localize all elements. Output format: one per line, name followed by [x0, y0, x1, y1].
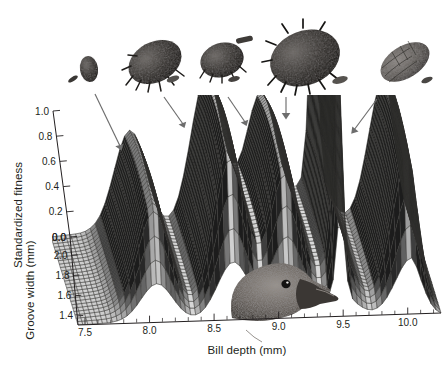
x-axis-title: Bill depth (mm) — [208, 344, 287, 356]
svg-text:8.5: 8.5 — [207, 323, 221, 334]
arrow-1 — [95, 94, 123, 151]
y-axis-title: Groove width (mm) — [24, 240, 36, 340]
svg-text:1.8: 1.8 — [56, 270, 70, 281]
crossbill-eye — [281, 280, 290, 288]
seed-1 — [67, 74, 79, 84]
arrow-3 — [228, 97, 248, 126]
cone-3 — [196, 35, 253, 83]
arrow-4 — [282, 97, 291, 120]
svg-text:9.5: 9.5 — [336, 319, 350, 330]
svg-text:0.2: 0.2 — [49, 206, 63, 217]
svg-text:10.0: 10.0 — [398, 317, 418, 328]
arrow-2 — [164, 97, 186, 128]
svg-text:0.0: 0.0 — [52, 232, 66, 243]
svg-text:0.8: 0.8 — [38, 131, 52, 142]
svg-text:9.0: 9.0 — [272, 321, 286, 332]
svg-text:2.0: 2.0 — [54, 250, 68, 261]
cone-illustrations — [67, 19, 436, 97]
z-axis-title: Standardized fitness — [12, 162, 24, 268]
svg-text:1.4: 1.4 — [59, 310, 73, 321]
cone-3-stalk — [236, 35, 254, 44]
figure-root: Standardized fitness Groove width (mm) B… — [0, 0, 446, 372]
svg-text:0.4: 0.4 — [45, 181, 59, 192]
cone-4 — [262, 19, 349, 97]
z-axis-ticks — [53, 110, 77, 237]
cone-1 — [67, 55, 100, 84]
seed-3 — [228, 75, 241, 83]
surface-plot-canvas: Standardized fitness Groove width (mm) B… — [0, 0, 446, 372]
cone-5 — [374, 34, 437, 90]
svg-text:1.6: 1.6 — [57, 290, 71, 301]
svg-text:1.0: 1.0 — [35, 106, 49, 117]
cone-2 — [121, 31, 189, 93]
svg-text:0.6: 0.6 — [42, 156, 56, 167]
svg-text:8.0: 8.0 — [143, 325, 157, 336]
seed-5 — [420, 75, 433, 84]
svg-text:7.5: 7.5 — [78, 327, 92, 338]
z-axis-line — [53, 111, 70, 237]
